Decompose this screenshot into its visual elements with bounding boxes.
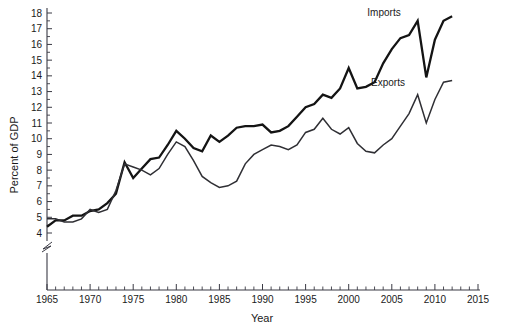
y-axis-title: Percent of GDP xyxy=(8,116,20,193)
series-line-imports xyxy=(47,16,452,227)
x-tick-label: 1980 xyxy=(165,294,188,305)
y-axis: 456789101112131415161718 xyxy=(31,8,52,290)
x-tick-label: 1985 xyxy=(208,294,231,305)
y-tick-label: 13 xyxy=(31,86,43,97)
series-label-imports: Imports xyxy=(367,7,400,18)
x-tick-label: 2005 xyxy=(381,294,404,305)
series-line-exports xyxy=(47,81,452,222)
y-tick-label: 18 xyxy=(31,8,43,19)
y-tick-label: 17 xyxy=(31,23,43,34)
axis-titles: Percent of GDPYear xyxy=(8,116,273,324)
x-tick-label: 1965 xyxy=(36,294,59,305)
y-tick-label: 8 xyxy=(36,165,42,176)
y-tick-label: 6 xyxy=(36,196,42,207)
y-tick-label: 10 xyxy=(31,133,43,144)
series-annotations: ImportsExports xyxy=(367,7,405,88)
x-tick-label: 2000 xyxy=(338,294,361,305)
y-tick-label: 9 xyxy=(36,149,42,160)
x-tick-label: 1990 xyxy=(251,294,274,305)
x-tick-label: 1970 xyxy=(79,294,102,305)
x-axis: 1965197019751980198519901995200020052010… xyxy=(36,284,490,305)
chart-figure: 456789101112131415161718 196519701975198… xyxy=(0,0,509,333)
y-tick-label: 12 xyxy=(31,102,43,113)
y-tick-label: 14 xyxy=(31,70,43,81)
x-tick-label: 2015 xyxy=(467,294,490,305)
y-tick-label: 4 xyxy=(36,228,42,239)
y-tick-label: 16 xyxy=(31,39,43,50)
y-tick-label: 7 xyxy=(36,180,42,191)
x-tick-label: 2010 xyxy=(424,294,447,305)
x-tick-label: 1995 xyxy=(294,294,317,305)
y-tick-label: 15 xyxy=(31,55,43,66)
y-tick-label: 5 xyxy=(36,212,42,223)
x-tick-label: 1975 xyxy=(122,294,145,305)
y-tick-label: 11 xyxy=(32,118,43,129)
x-axis-title: Year xyxy=(251,312,274,324)
series-label-exports: Exports xyxy=(371,77,405,88)
series-lines xyxy=(47,16,452,227)
line-chart-canvas: 456789101112131415161718 196519701975198… xyxy=(0,0,509,333)
